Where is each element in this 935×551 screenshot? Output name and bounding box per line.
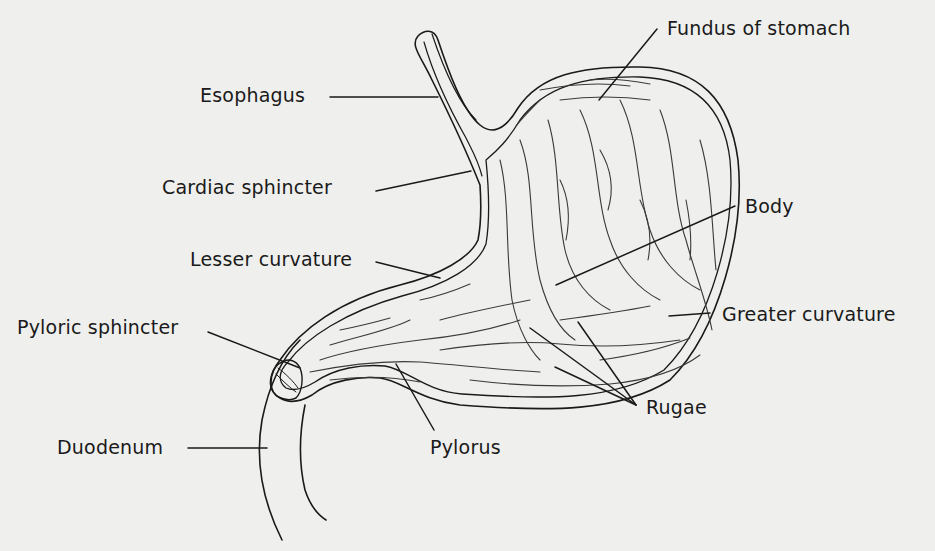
label-greater-curvature: Greater curvature	[722, 305, 896, 324]
label-pyloric-sphincter: Pyloric sphincter	[17, 318, 178, 337]
rugae-folds	[310, 79, 716, 386]
label-lesser-curvature: Lesser curvature	[190, 250, 352, 269]
stomach-diagram: Fundus of stomach Esophagus Cardiac sphi…	[0, 0, 935, 551]
label-cardiac-sphincter: Cardiac sphincter	[162, 178, 332, 197]
leader-body	[556, 206, 735, 285]
leader-rugae-2	[578, 322, 636, 405]
leader-lesser-curvature	[376, 262, 440, 278]
stomach-illustration	[0, 0, 935, 551]
label-body: Body	[745, 197, 794, 216]
label-rugae: Rugae	[646, 398, 707, 417]
esophagus-outline	[271, 31, 739, 409]
esophagus-inner-right	[432, 34, 476, 120]
label-fundus-of-stomach: Fundus of stomach	[667, 19, 850, 38]
label-esophagus: Esophagus	[200, 86, 305, 105]
leader-fundus	[599, 29, 657, 100]
leader-cardiac-sphincter	[376, 171, 471, 191]
label-duodenum: Duodenum	[57, 438, 163, 457]
duodenum-inner	[300, 405, 326, 520]
leader-greater-curvature	[669, 313, 710, 316]
esophagus-inner-left	[424, 42, 482, 176]
leader-rugae-1	[530, 328, 636, 405]
duodenum-outer	[259, 340, 300, 540]
leader-pyloric-sphincter	[208, 332, 300, 368]
label-pylorus: Pylorus	[430, 438, 501, 457]
